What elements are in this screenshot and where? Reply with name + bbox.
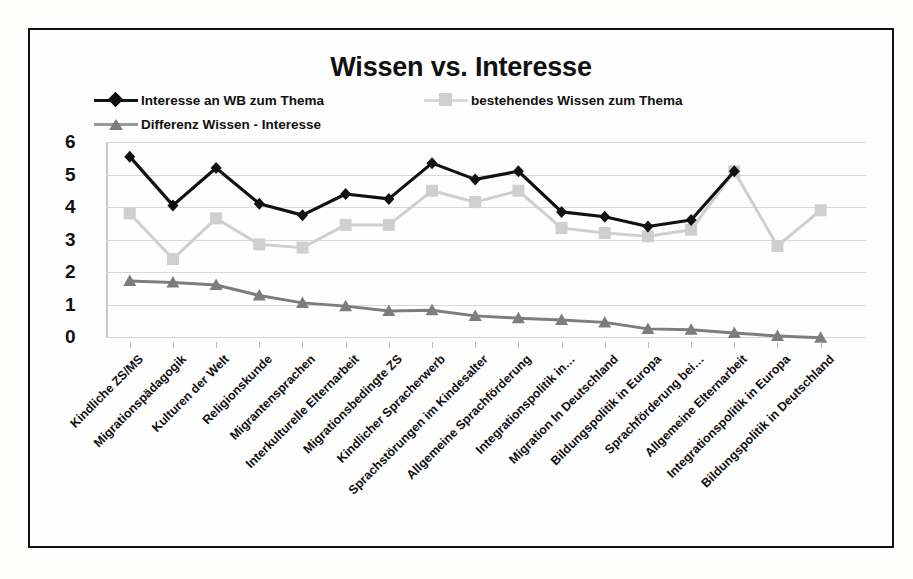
y-tick-label-3: 3 <box>65 229 76 251</box>
x-tick-mark <box>216 342 217 348</box>
legend-label-wissen: bestehendes Wissen zum Thema <box>471 93 682 108</box>
x-tick-mark <box>389 342 390 348</box>
x-axis-label-0: Kindliche ZS/MS <box>67 352 146 431</box>
triangle-marker-icon <box>94 117 138 131</box>
plot-area: 0123456 <box>106 142 866 337</box>
legend-label-differenz: Differenz Wissen - Interesse <box>141 117 321 132</box>
x-tick-mark <box>475 342 476 348</box>
y-tick-label-0: 0 <box>65 326 76 348</box>
x-tick-mark <box>518 342 519 348</box>
legend-item-wissen[interactable]: bestehendes Wissen zum Thema <box>424 93 682 108</box>
square-marker-icon <box>424 93 468 107</box>
diamond-marker-icon <box>94 93 138 107</box>
x-tick-mark <box>259 342 260 348</box>
x-tick-mark <box>821 342 822 348</box>
series-layer <box>106 142 866 337</box>
chart-legend: Interesse an WB zum Thema bestehendes Wi… <box>94 88 854 136</box>
legend-item-interesse[interactable]: Interesse an WB zum Thema <box>94 93 424 108</box>
x-tick-mark <box>691 342 692 348</box>
y-tick-label-6: 6 <box>65 131 76 153</box>
chart-frame: Wissen vs. Interesse Interesse an WB zum… <box>28 28 894 548</box>
x-axis-label-2: Kulturen der Welt <box>149 352 232 435</box>
x-tick-mark <box>734 342 735 348</box>
legend-row-top: Interesse an WB zum Thema bestehendes Wi… <box>94 88 854 112</box>
x-tick-mark <box>648 342 649 348</box>
x-tick-mark <box>302 342 303 348</box>
x-tick-mark <box>562 342 563 348</box>
y-tick-label-4: 4 <box>65 196 76 218</box>
x-tick-mark <box>432 342 433 348</box>
x-axis-labels: Kindliche ZS/MSMigrationspädagogikKultur… <box>106 342 896 572</box>
y-tick-label-2: 2 <box>65 261 76 283</box>
x-tick-mark <box>605 342 606 348</box>
x-tick-mark <box>346 342 347 348</box>
y-tick-label-5: 5 <box>65 164 76 186</box>
x-tick-mark <box>130 342 131 348</box>
y-tick-label-1: 1 <box>65 294 76 316</box>
x-tick-mark <box>777 342 778 348</box>
legend-item-differenz[interactable]: Differenz Wissen - Interesse <box>94 117 424 132</box>
series-2 <box>123 275 827 343</box>
gridline-0 <box>106 337 866 338</box>
x-tick-mark <box>173 342 174 348</box>
legend-label-interesse: Interesse an WB zum Thema <box>141 93 324 108</box>
chart-title: Wissen vs. Interesse <box>30 52 892 83</box>
legend-row-bottom: Differenz Wissen - Interesse <box>94 112 854 136</box>
